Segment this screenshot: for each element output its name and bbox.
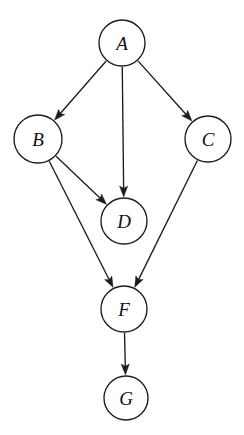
node-label: G [119,388,133,409]
graph-edge-b-to-d [56,156,107,204]
edge-line [122,67,123,189]
directed-graph-diagram: ABCDFG [0,0,244,435]
node-label: B [32,129,44,150]
node-label: D [116,211,131,232]
edge-line [56,156,100,198]
node-label: A [114,33,128,54]
edge-line [60,61,106,114]
graph-edge-a-to-c [138,61,192,121]
graph-edge-a-to-d [120,67,128,197]
node-label: C [202,129,215,150]
graph-edge-f-to-g [121,333,129,375]
node-label: F [117,299,130,320]
graph-node-b[interactable]: B [14,115,62,163]
graph-edge-a-to-b [54,61,106,120]
graph-canvas: ABCDFG [0,0,244,435]
graph-node-g[interactable]: G [104,376,148,420]
graph-node-c[interactable]: C [185,116,231,162]
graph-node-f[interactable]: F [101,286,147,332]
edge-line [125,333,126,367]
edge-line [138,61,186,115]
graph-node-a[interactable]: A [99,20,145,66]
graph-node-d[interactable]: D [101,198,147,244]
